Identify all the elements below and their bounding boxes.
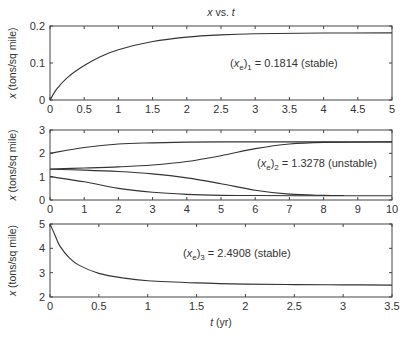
y-tick-label: 5 — [39, 218, 45, 230]
equilibrium-annotation: (xe)2 = 1.3278 (unstable) — [257, 157, 377, 172]
y-tick-label: 2 — [39, 147, 45, 159]
series-line — [50, 177, 392, 196]
x-tick-label: 4 — [321, 103, 327, 115]
y-tick-label: 1 — [39, 171, 45, 183]
y-tick-label: 0 — [39, 94, 45, 106]
y-tick-label: 2 — [39, 291, 45, 303]
x-tick-label: 1 — [115, 103, 121, 115]
chart-title: x vs. t — [206, 6, 236, 18]
x-tick-label: 5 — [218, 203, 224, 215]
y-tick-label: 0.1 — [30, 57, 45, 69]
chart-figure: x vs. t 00.511.522.533.544.5500.10.2x (t… — [0, 0, 412, 342]
x-tick-label: 0 — [47, 300, 53, 312]
plot-frame — [50, 26, 392, 100]
series-line — [50, 142, 392, 153]
y-tick-label: 0 — [39, 194, 45, 206]
x-tick-label: 2.5 — [287, 300, 302, 312]
x-tick-label: 8 — [321, 203, 327, 215]
x-tick-label: 5 — [389, 103, 395, 115]
x-tick-label: 3 — [150, 203, 156, 215]
y-axis-label: x (tons/sq mile) — [6, 225, 18, 297]
plot-panel-1: 00.511.522.533.544.5500.10.2x (tons/sq m… — [6, 20, 395, 115]
series-line — [50, 33, 392, 100]
series-line — [50, 169, 344, 195]
x-tick-label: 1.5 — [189, 300, 204, 312]
x-tick-label: 4 — [184, 203, 190, 215]
x-tick-label: 3 — [252, 103, 258, 115]
x-tick-label: 2 — [184, 103, 190, 115]
plot-frame — [50, 224, 392, 297]
x-tick-label: 9 — [355, 203, 361, 215]
x-tick-label: 3 — [340, 300, 346, 312]
y-axis-label: x (tons/sq mile) — [6, 27, 18, 99]
x-tick-label: 1 — [81, 203, 87, 215]
x-tick-label: 10 — [386, 203, 398, 215]
x-tick-label: 0.5 — [91, 300, 106, 312]
x-tick-label: 1.5 — [145, 103, 160, 115]
y-tick-label: 3 — [39, 267, 45, 279]
x-tick-label: 3.5 — [384, 300, 399, 312]
equilibrium-annotation: (xe)1 = 0.1814 (stable) — [230, 57, 338, 72]
x-axis-label: t (yr) — [210, 316, 232, 328]
x-tick-label: 2.5 — [213, 103, 228, 115]
plot-panel-3: 00.511.522.533.52345x (tons/sq mile)(xe)… — [6, 218, 400, 312]
x-tick-label: 3.5 — [282, 103, 297, 115]
x-tick-label: 1 — [145, 300, 151, 312]
x-tick-label: 0 — [47, 103, 53, 115]
y-axis-label: x (tons/sq mile) — [6, 129, 18, 201]
x-tick-label: 0.5 — [77, 103, 92, 115]
x-tick-label: 6 — [252, 203, 258, 215]
x-tick-label: 7 — [286, 203, 292, 215]
x-tick-label: 2 — [242, 300, 248, 312]
equilibrium-annotation: (xe)3 = 2.4908 (stable) — [183, 247, 291, 262]
x-tick-label: 4.5 — [350, 103, 365, 115]
y-tick-label: 4 — [39, 242, 45, 254]
x-tick-label: 2 — [115, 203, 121, 215]
x-tick-label: 0 — [47, 203, 53, 215]
y-tick-label: 3 — [39, 124, 45, 136]
y-tick-label: 0.2 — [30, 20, 45, 32]
plot-panel-2: 0123456789100123x (tons/sq mile)(xe)2 = … — [6, 124, 398, 215]
